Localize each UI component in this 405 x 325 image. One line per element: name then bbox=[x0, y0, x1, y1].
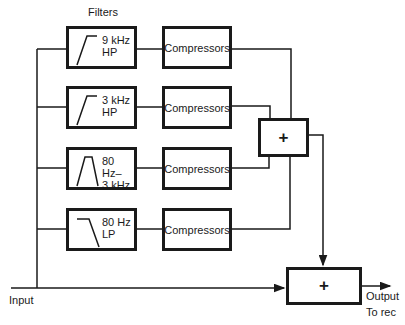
input-label: Input bbox=[9, 294, 33, 306]
compressor-4: Compressors bbox=[162, 208, 232, 251]
filter-label: 80 Hz– bbox=[102, 155, 134, 179]
filters-heading: Filters bbox=[88, 6, 118, 18]
filter-label: 9 kHz bbox=[102, 34, 130, 46]
band-summer: + bbox=[258, 118, 309, 157]
filter-9khz-hp: 9 kHzHP bbox=[66, 26, 137, 69]
highpass-icon bbox=[75, 93, 99, 127]
filter-3khz-hp: 3 kHzHP bbox=[66, 86, 137, 129]
bandpass-icon bbox=[75, 154, 101, 188]
highpass-icon bbox=[75, 33, 99, 67]
filter-type: LP bbox=[102, 228, 131, 240]
output-sublabel: To rec bbox=[366, 306, 396, 318]
compressor-3: Compressors bbox=[162, 147, 232, 190]
filter-label: 3 kHz bbox=[102, 94, 130, 106]
filter-label: 80 Hz bbox=[102, 216, 131, 228]
output-summer: + bbox=[286, 267, 362, 305]
compressor-2: Compressors bbox=[162, 86, 232, 129]
filter-type: 3 kHz bbox=[102, 179, 134, 191]
filter-80hz-lp: 80 HzLP bbox=[66, 208, 137, 251]
filter-type: HP bbox=[102, 106, 130, 118]
filter-bandpass: 80 Hz–3 kHz bbox=[66, 147, 137, 190]
filter-type: HP bbox=[102, 46, 130, 58]
output-label: Output bbox=[366, 290, 399, 302]
lowpass-icon bbox=[75, 215, 101, 249]
compressor-1: Compressors bbox=[162, 26, 232, 69]
